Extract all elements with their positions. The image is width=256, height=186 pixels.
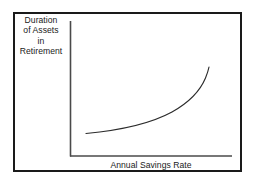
y-axis-label-line-3: in xyxy=(14,36,68,46)
y-axis-label-line-1: Duration xyxy=(14,15,68,25)
y-axis-label-line-4: Retirement xyxy=(14,46,68,56)
figure-container: Duration of Assets in Retirement Annual … xyxy=(0,0,256,186)
y-axis-label-line-2: of Assets xyxy=(14,25,68,35)
exponential-curve xyxy=(86,67,209,134)
y-axis-label: Duration of Assets in Retirement xyxy=(14,15,68,57)
x-axis-label: Annual Savings Rate xyxy=(70,160,232,170)
